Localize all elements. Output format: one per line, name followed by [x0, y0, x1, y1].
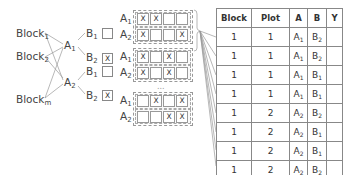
plot1-row-label-a1: A1 [120, 13, 132, 26]
cell-y [327, 85, 343, 104]
col-header-block: Block [217, 9, 252, 28]
cell-b: B1 [308, 85, 327, 104]
b-level-3: B1 [86, 66, 98, 79]
cell-a: A2 [290, 104, 308, 123]
col-header-y: Y [327, 9, 343, 28]
plot2-row-label-a1: A1 [120, 51, 132, 64]
block-label-m: Blockm [16, 94, 51, 107]
cell-b: B2 [308, 47, 327, 66]
table-row: 1 2 A2 B1 [217, 123, 343, 142]
cell-y [327, 161, 343, 176]
table-row: 1 1 A1 B2 [217, 47, 343, 66]
plot2-row-label-a2: A2 [120, 67, 132, 80]
cell-b: B1 [308, 66, 327, 85]
cell-block: 1 [217, 28, 252, 47]
cell-block: 1 [217, 104, 252, 123]
cell-a: A1 [290, 28, 308, 47]
b-checkbox-3 [102, 66, 113, 77]
cell-b: B2 [308, 161, 327, 176]
plot-cell: X [176, 29, 188, 41]
cell-y [327, 47, 343, 66]
ellipsis: ... [157, 82, 165, 91]
plot-cell [150, 51, 162, 63]
plot-cell [176, 51, 188, 63]
plot-cell: X [137, 29, 149, 41]
plot-cell: X [137, 13, 149, 25]
cell-plot: 2 [252, 161, 290, 176]
plot-cell [176, 13, 188, 25]
plot-cell: X [163, 111, 175, 123]
plot3-row-label-a2: A2 [120, 111, 132, 124]
table-row: 1 1 A1 B2 [217, 28, 343, 47]
cell-plot: 1 [252, 66, 290, 85]
plot-cell [150, 29, 162, 41]
plot1-row-label-a2: A2 [120, 29, 132, 42]
cell-a: A1 [290, 85, 308, 104]
cell-a: A1 [290, 66, 308, 85]
cell-plot: 2 [252, 142, 290, 161]
cell-y [327, 104, 343, 123]
cell-plot: 1 [252, 47, 290, 66]
cell-block: 1 [217, 142, 252, 161]
b-level-4: B2 [86, 90, 98, 103]
block-label-2: Block2 [16, 51, 49, 64]
cell-b: B1 [308, 142, 327, 161]
plot-cell: X [150, 95, 162, 107]
b-level-2: B2 [86, 52, 98, 65]
cell-y [327, 28, 343, 47]
plot-cell [137, 95, 149, 107]
b-checkbox-4: X [102, 90, 113, 101]
cell-block: 1 [217, 47, 252, 66]
plot-cell [163, 29, 175, 41]
plot-cell: X [163, 51, 175, 63]
b-checkbox-1 [102, 28, 113, 39]
cell-b: B2 [308, 28, 327, 47]
plot-cell [150, 67, 162, 79]
data-table: Block Plot A B Y 1 1 A1 B2 1 1 A1 B2 1 1… [216, 8, 343, 175]
cell-block: 1 [217, 123, 252, 142]
plot-cell [163, 13, 175, 25]
col-header-plot: Plot [252, 9, 290, 28]
cell-block: 1 [217, 85, 252, 104]
table-row: 1 2 A2 B2 [217, 161, 343, 176]
a-level-1: A1 [64, 40, 76, 53]
cell-plot: 1 [252, 85, 290, 104]
plot-cell [137, 111, 149, 123]
cell-b: B2 [308, 104, 327, 123]
cell-b: B1 [308, 123, 327, 142]
plot-cell: X [137, 67, 149, 79]
b-checkbox-2: X [102, 53, 113, 64]
cell-block: 1 [217, 161, 252, 176]
col-header-a: A [290, 9, 308, 28]
table-row: 1 1 A1 B1 [217, 66, 343, 85]
plot-cell [176, 67, 188, 79]
table-row: 1 2 A2 B2 [217, 104, 343, 123]
cell-y [327, 66, 343, 85]
cell-y [327, 142, 343, 161]
a-level-2: A2 [64, 77, 76, 90]
cell-plot: 1 [252, 28, 290, 47]
plot3-row-label-a1: A1 [120, 95, 132, 108]
plot-cell: X [163, 67, 175, 79]
plot-cell [150, 111, 162, 123]
plot-cell: X [137, 51, 149, 63]
plot-cell: X [176, 95, 188, 107]
cell-y [327, 123, 343, 142]
table-row: 1 2 A2 B1 [217, 142, 343, 161]
col-header-b: B [308, 9, 327, 28]
cell-block: 1 [217, 66, 252, 85]
table-row: 1 1 A1 B1 [217, 85, 343, 104]
b-level-1: B1 [86, 28, 98, 41]
cell-a: A2 [290, 142, 308, 161]
plot-cell: X [150, 13, 162, 25]
cell-a: A2 [290, 161, 308, 176]
plot-cell [163, 95, 175, 107]
table-header-row: Block Plot A B Y [217, 9, 343, 28]
cell-a: A1 [290, 47, 308, 66]
block-label-1: Block1 [16, 28, 49, 41]
cell-plot: 2 [252, 123, 290, 142]
cell-a: A2 [290, 123, 308, 142]
plot-cell: X [176, 111, 188, 123]
cell-plot: 2 [252, 104, 290, 123]
